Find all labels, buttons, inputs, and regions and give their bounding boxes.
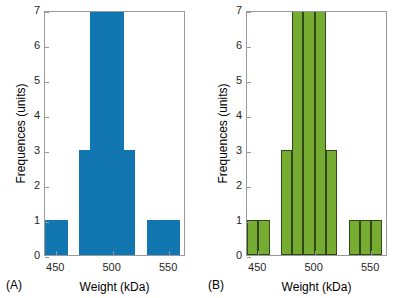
- y-tick: [45, 257, 49, 258]
- x-tick: [258, 251, 259, 255]
- y-tick-label: 3: [34, 145, 40, 156]
- x-axis-label: Weight (kDa): [44, 280, 185, 294]
- histogram-bar: [326, 150, 337, 255]
- y-tick: [247, 257, 251, 258]
- x-axis-label: Weight (kDa): [246, 280, 387, 294]
- y-axis-label: Frequences (units): [216, 11, 230, 256]
- y-tick-label: 7: [236, 5, 242, 16]
- y-tick-label: 3: [236, 145, 242, 156]
- histogram-bar: [303, 12, 314, 255]
- histogram-bar: [169, 220, 180, 255]
- y-tick-label: 6: [34, 40, 40, 51]
- y-tick-label: 4: [236, 110, 242, 121]
- y-tick: [45, 187, 49, 188]
- plot-axes-a: [44, 11, 185, 256]
- y-tick: [45, 12, 49, 13]
- histogram-bar: [360, 220, 371, 255]
- x-tick-label: 450: [248, 262, 266, 273]
- y-tick-label: 0: [236, 250, 242, 261]
- y-tick: [247, 152, 251, 153]
- y-tick: [247, 117, 251, 118]
- y-tick-label: 2: [236, 180, 242, 191]
- y-axis-label: Frequences (units): [14, 11, 28, 256]
- histogram-bar: [147, 220, 158, 255]
- x-tick-label: 550: [159, 262, 177, 273]
- y-tick: [247, 12, 251, 13]
- histogram-bar: [56, 220, 67, 255]
- panel-a: 01234567450500550Weight (kDa)Frequences …: [0, 0, 202, 298]
- y-tick: [45, 117, 49, 118]
- histogram-bar: [258, 220, 269, 255]
- plot-axes-b: [246, 11, 387, 256]
- y-tick: [45, 82, 49, 83]
- histogram-bar: [90, 12, 101, 255]
- x-tick: [315, 251, 316, 255]
- y-tick: [45, 152, 49, 153]
- x-tick-label: 450: [46, 262, 64, 273]
- panel-label-a: (A): [6, 278, 22, 292]
- x-tick: [56, 251, 57, 255]
- histogram-bar: [371, 220, 382, 255]
- x-tick-label: 550: [361, 262, 379, 273]
- x-tick: [113, 251, 114, 255]
- histogram-bar: [124, 150, 135, 255]
- y-tick-label: 0: [34, 250, 40, 261]
- y-tick-label: 6: [236, 40, 242, 51]
- y-tick-label: 7: [34, 5, 40, 16]
- y-tick-label: 1: [34, 215, 40, 226]
- x-tick: [169, 251, 170, 255]
- panel-label-b: (B): [208, 278, 224, 292]
- y-tick-label: 2: [34, 180, 40, 191]
- y-tick-label: 1: [236, 215, 242, 226]
- histogram-bar: [45, 220, 56, 255]
- y-tick: [45, 47, 49, 48]
- histogram-bar: [158, 220, 169, 255]
- x-tick-label: 500: [102, 262, 120, 273]
- x-tick: [371, 251, 372, 255]
- y-tick-label: 4: [34, 110, 40, 121]
- x-tick-label: 500: [304, 262, 322, 273]
- histogram-bar: [113, 12, 124, 255]
- histogram-bar: [247, 220, 258, 255]
- histogram-bar: [349, 220, 360, 255]
- plot-area-a: [45, 12, 184, 255]
- y-tick: [247, 47, 251, 48]
- panel-b: 01234567450500550Weight (kDa)Frequences …: [202, 0, 404, 298]
- histogram-figure: 01234567450500550Weight (kDa)Frequences …: [0, 0, 405, 298]
- y-tick: [247, 82, 251, 83]
- y-tick: [247, 222, 251, 223]
- histogram-bar: [101, 12, 112, 255]
- histogram-bar: [292, 12, 303, 255]
- y-tick-label: 5: [34, 75, 40, 86]
- histogram-bar: [79, 150, 90, 255]
- histogram-bar: [315, 12, 326, 255]
- y-tick-label: 5: [236, 75, 242, 86]
- y-tick: [247, 187, 251, 188]
- histogram-bar: [281, 150, 292, 255]
- y-tick: [45, 222, 49, 223]
- plot-area-b: [247, 12, 386, 255]
